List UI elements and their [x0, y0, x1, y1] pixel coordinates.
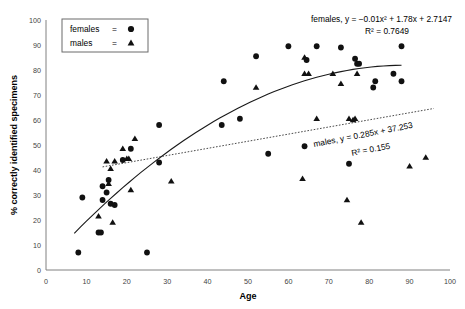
legend-equals-males: = [112, 38, 117, 48]
data-point-females [399, 78, 405, 84]
data-point-females [253, 53, 259, 59]
y-tick-label: 50 [33, 141, 41, 150]
y-tick-label: 20 [33, 216, 41, 225]
data-point-males [354, 71, 361, 77]
data-point-males [305, 71, 312, 77]
y-axis-title: % correctly identified specimens [9, 75, 19, 215]
y-tick-label: 30 [33, 191, 41, 200]
y-tick-label: 60 [33, 116, 41, 125]
y-tick-label: 10 [33, 241, 41, 250]
data-point-females [79, 195, 85, 201]
y-tick-label: 40 [33, 166, 41, 175]
data-point-females [100, 197, 106, 203]
plot-area: 100 90 80 70 60 50 40 30 20 10 0 0 10 20… [0, 0, 465, 309]
data-point-males [313, 116, 320, 122]
data-point-females [104, 190, 110, 196]
data-point-females [128, 146, 134, 152]
data-point-males [344, 197, 351, 203]
legend: females = males = [62, 19, 148, 52]
y-tick-label: 80 [33, 66, 41, 75]
data-point-males [111, 158, 118, 164]
x-tick-label: 40 [204, 277, 212, 286]
data-point-males [95, 213, 102, 219]
x-tick-labels: 0 10 20 30 40 50 60 70 80 90 100 [44, 277, 456, 286]
data-point-males [128, 187, 135, 193]
data-point-females [100, 183, 106, 189]
x-axis-title: Age [239, 291, 256, 301]
y-tick-label: 70 [33, 91, 41, 100]
data-point-males [168, 178, 175, 184]
data-point-females [265, 151, 271, 157]
data-point-females [144, 250, 150, 256]
data-point-females [112, 202, 118, 208]
data-point-females [286, 43, 292, 49]
data-point-males [103, 158, 110, 164]
males-r2-annotation: R² = 0.155 [350, 141, 391, 158]
data-point-females [302, 143, 308, 149]
data-point-females [156, 160, 162, 166]
data-point-males [119, 146, 126, 152]
data-point-females [391, 71, 397, 77]
data-point-males [107, 166, 114, 172]
x-tick-label: 10 [82, 277, 90, 286]
data-point-males [253, 84, 260, 90]
y-tick-label: 90 [33, 41, 41, 50]
data-point-females [156, 122, 162, 128]
data-point-females [314, 43, 320, 49]
data-point-females [75, 250, 81, 256]
legend-label-females: females [70, 24, 99, 34]
males-data-points [95, 54, 429, 225]
x-tick-label: 20 [123, 277, 131, 286]
data-point-males [338, 81, 345, 87]
y-tick-labels: 100 90 80 70 60 50 40 30 20 10 0 [29, 16, 41, 275]
data-point-females [346, 161, 352, 167]
x-tick-label: 80 [365, 277, 373, 286]
data-point-females [98, 230, 104, 236]
y-tick-label: 0 [37, 266, 41, 275]
x-tick-label: 0 [44, 277, 48, 286]
males-trendline [103, 108, 434, 166]
scatter-chart: 100 90 80 70 60 50 40 30 20 10 0 0 10 20… [0, 0, 465, 309]
data-point-females [219, 122, 225, 128]
data-point-females [338, 45, 344, 51]
data-point-females [221, 78, 227, 84]
x-tick-label: 70 [325, 277, 333, 286]
data-point-females [237, 116, 243, 122]
x-tick-label: 50 [244, 277, 252, 286]
data-point-females [372, 78, 378, 84]
data-point-females [352, 56, 358, 62]
data-point-males [109, 219, 116, 225]
circle-marker-icon [128, 26, 134, 32]
data-point-males [299, 176, 306, 182]
data-point-females [370, 85, 376, 91]
legend-label-males: males [70, 38, 92, 48]
females-equation-annotation: females, y = −0.01x² + 1.78x + 2.7147 [311, 14, 452, 24]
data-point-females [399, 43, 405, 49]
x-tick-label: 30 [163, 277, 171, 286]
y-tick-label: 100 [29, 16, 41, 25]
females-r2-annotation: R² = 0.7649 [365, 26, 409, 36]
data-point-males [301, 54, 308, 60]
x-tick-label: 90 [406, 277, 414, 286]
data-point-males [422, 154, 429, 160]
males-equation-annotation: males, y = 0.285x + 37.253 [312, 120, 413, 149]
x-tick-label: 100 [444, 277, 456, 286]
data-point-females [356, 61, 362, 67]
legend-equals-females: = [112, 24, 117, 34]
data-point-males [358, 219, 365, 225]
x-tick-label: 60 [284, 277, 292, 286]
data-point-males [132, 136, 139, 142]
data-point-males [406, 163, 413, 169]
